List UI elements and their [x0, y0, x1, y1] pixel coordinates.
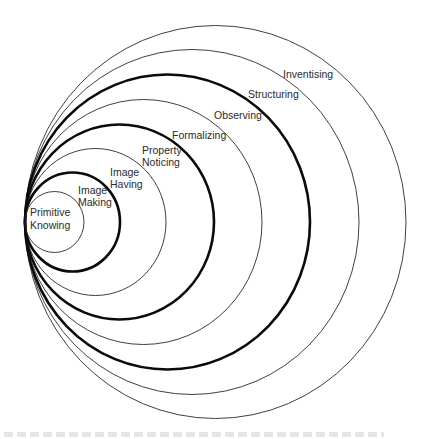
caption-blurred-text	[4, 432, 384, 437]
label-property-noticing-line1: Property	[142, 144, 182, 156]
labels-group: PrimitiveKnowingImageMakingImageHavingPr…	[30, 68, 333, 231]
label-structuring: Structuring	[248, 88, 299, 100]
label-primitive-knowing-line2: Knowing	[30, 219, 70, 231]
label-primitive-knowing-line1: Primitive	[30, 206, 70, 218]
label-property-noticing-line2: Noticing	[142, 156, 180, 168]
label-formalizing: Formalizing	[172, 129, 226, 141]
label-image-making-line1: Image	[78, 184, 107, 196]
label-observing: Observing	[214, 109, 262, 121]
label-image-making-line2: Making	[78, 196, 112, 208]
figure-caption-cutoff	[0, 430, 421, 439]
nested-circles-diagram: PrimitiveKnowingImageMakingImageHavingPr…	[0, 0, 421, 439]
rings-group	[25, 26, 406, 419]
label-image-having-line2: Having	[110, 178, 143, 190]
label-image-having-line1: Image	[110, 166, 139, 178]
label-inventising: Inventising	[283, 68, 333, 80]
